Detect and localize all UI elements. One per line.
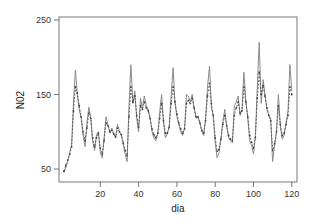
fitted-point-marker (262, 85, 264, 87)
fitted-point-marker (241, 110, 243, 112)
y-tick-label: 50 (41, 164, 51, 174)
fitted-point-marker (230, 138, 232, 140)
fitted-point-marker (249, 135, 251, 137)
fitted-point-marker (99, 147, 101, 149)
fitted-point-marker (189, 103, 191, 105)
fitted-point-marker (166, 132, 168, 134)
fitted-point-marker (103, 140, 105, 142)
fitted-point-marker (124, 150, 126, 152)
fitted-point-marker (76, 92, 78, 94)
fitted-point-marker (278, 105, 280, 107)
fitted-point-marker (174, 101, 176, 103)
fitted-point-marker (258, 71, 260, 73)
fitted-point-marker (279, 123, 281, 125)
fitted-point-marker (111, 129, 113, 131)
fitted-point-marker (94, 146, 96, 148)
y-tick-label: 150 (36, 90, 51, 100)
fitted-point-marker (232, 140, 234, 142)
fitted-point-marker (105, 122, 107, 124)
fitted-point-marker (201, 129, 203, 131)
fitted-point-marker (101, 153, 103, 155)
fitted-point-marker (256, 97, 258, 99)
fitted-point-marker (71, 146, 73, 148)
fitted-point-marker (180, 128, 182, 130)
fitted-point-marker (151, 128, 153, 130)
fitted-point-marker (149, 117, 151, 119)
fitted-point-marker (122, 142, 124, 144)
fitted-point-marker (142, 109, 144, 111)
fitted-point-marker (220, 138, 222, 140)
fitted-point-marker (82, 131, 84, 133)
fitted-point-marker (228, 135, 230, 137)
fitted-point-marker (69, 153, 71, 155)
fitted-point-marker (107, 125, 109, 127)
x-tick-label: 60 (172, 189, 182, 199)
fitted-point-marker (212, 115, 214, 117)
x-tick-label: 100 (246, 189, 261, 199)
fitted-point-marker (239, 112, 241, 114)
fitted-point-marker (205, 120, 207, 122)
fitted-point-marker (209, 82, 211, 84)
fitted-point-marker (218, 149, 220, 151)
x-tick-label: 20 (95, 189, 105, 199)
fitted-point-marker (233, 115, 235, 117)
fitted-point-marker (281, 135, 283, 137)
fitted-point-marker (245, 101, 247, 103)
fitted-point-marker (92, 137, 94, 139)
fitted-point-marker (168, 126, 170, 128)
fitted-point-marker (88, 112, 90, 114)
y-axis-title: N02 (15, 90, 26, 109)
fitted-point-marker (255, 137, 257, 139)
fitted-point-marker (126, 155, 128, 157)
fitted-point-marker (143, 101, 145, 103)
fitted-point-marker (170, 103, 172, 105)
fitted-point-marker (165, 132, 167, 134)
fitted-point-marker (155, 137, 157, 139)
fitted-point-marker (266, 107, 268, 109)
fitted-point-marker (270, 120, 272, 122)
fitted-point-marker (140, 105, 142, 107)
observed-series-line (64, 42, 292, 172)
fitted-point-marker (163, 120, 165, 122)
x-axis: 20406080100120 (95, 182, 299, 199)
fitted-point-marker (67, 159, 69, 161)
fitted-point-marker (86, 127, 88, 129)
fitted-point-marker (119, 131, 121, 133)
fitted-point-marker (251, 141, 253, 143)
fitted-point-marker (147, 110, 149, 112)
x-tick-label: 80 (210, 189, 220, 199)
fitted-point-marker (186, 103, 188, 105)
x-axis-title: dia (171, 203, 185, 214)
fitted-point-marker (182, 132, 184, 134)
fitted-point-marker (98, 132, 100, 134)
fitted-point-marker (247, 116, 249, 118)
fitted-point-marker (268, 115, 270, 117)
y-axis: 50150250 (36, 15, 59, 174)
x-tick-label: 120 (284, 189, 299, 199)
fitted-point-marker (113, 133, 115, 135)
y-tick-label: 250 (36, 15, 51, 25)
fitted-point-marker (184, 128, 186, 130)
fitted-point-marker (199, 122, 201, 124)
fitted-point-marker (289, 86, 291, 88)
fitted-point-marker (130, 86, 132, 88)
fitted-point-marker (172, 86, 174, 88)
fitted-point-marker (235, 107, 237, 109)
fitted-point-marker (78, 105, 80, 107)
fitted-point-marker (203, 132, 205, 134)
fitted-point-marker (134, 95, 136, 97)
fitted-point-marker (283, 132, 285, 134)
fitted-point-marker (84, 140, 86, 142)
fitted-point-marker (214, 137, 216, 139)
fitted-point-marker (260, 94, 262, 96)
fitted-point-marker (117, 127, 119, 129)
fitted-point-marker (176, 113, 178, 115)
fitted-point-marker (287, 115, 289, 117)
fitted-point-marker (109, 131, 111, 133)
fitted-point-marker (136, 115, 138, 117)
x-tick-label: 40 (134, 189, 144, 199)
fitted-point-marker (224, 115, 226, 117)
fitted-point-marker (128, 116, 130, 118)
fitted-point-marker (197, 116, 199, 118)
fitted-point-marker (272, 150, 274, 152)
